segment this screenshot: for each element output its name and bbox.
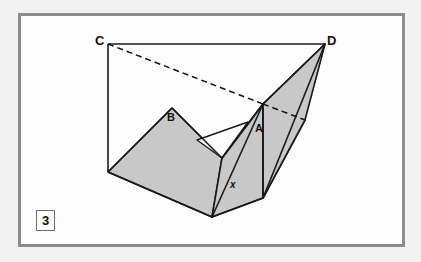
vertex-label-c: C <box>95 34 104 47</box>
vertex-label-x: x <box>230 180 236 190</box>
left-fold-face <box>108 108 222 217</box>
vertex-label-a: A <box>255 123 263 134</box>
vertex-label-d: D <box>327 34 336 47</box>
vertex-label-b: B <box>167 112 175 123</box>
figure-container: C D B A x 3 <box>0 0 421 262</box>
figure-number-badge: 3 <box>36 210 55 231</box>
geometry-drawing <box>0 0 421 262</box>
dashed-fold-c-apex <box>108 44 263 104</box>
